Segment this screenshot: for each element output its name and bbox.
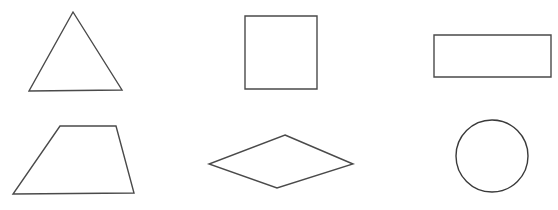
trapezoid-shape	[13, 126, 134, 194]
shapes-canvas	[0, 0, 558, 210]
triangle-shape	[29, 12, 122, 91]
rectangle-shape	[434, 35, 551, 77]
rhombus-shape	[209, 135, 353, 188]
shapes-diagram	[0, 0, 558, 210]
circle-shape	[456, 120, 528, 192]
square-shape	[245, 16, 317, 89]
